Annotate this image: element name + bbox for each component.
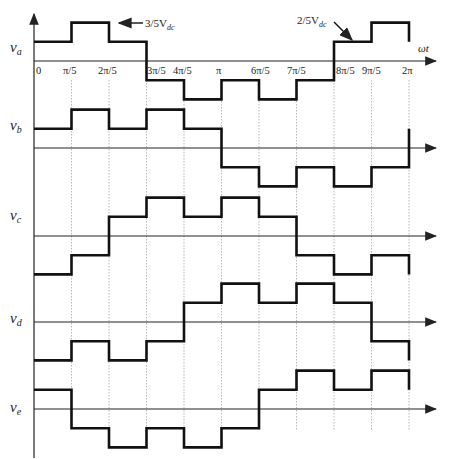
x-axis-label: ωt [418, 42, 430, 54]
tick-pi: π [216, 65, 222, 76]
tick-0: 0 [36, 65, 41, 76]
label-vc: vc [10, 207, 22, 225]
phase-axes [34, 61, 436, 409]
label-ve: ve [10, 399, 22, 417]
tick-2pi: 2π [402, 65, 413, 76]
tick-6pi-5: 6π/5 [251, 65, 270, 76]
tick-8pi-5: 8π/5 [336, 65, 355, 76]
waveform-diagram: 0 π/5 2π/5 3π/5 4π/5 π 6π/5 7π/5 8π/5 9π… [0, 0, 450, 459]
tick-3pi-5: 3π/5 [147, 65, 166, 76]
tick-9pi-5: 9π/5 [362, 65, 381, 76]
tick-pi-5: π/5 [63, 65, 76, 76]
tick-labels: 0 π/5 2π/5 3π/5 4π/5 π 6π/5 7π/5 8π/5 9π… [36, 65, 413, 76]
annotation-3-5-vdc: 3/5Vdc [145, 17, 175, 32]
tick-7pi-5: 7π/5 [287, 65, 306, 76]
annotation-arrow-2-5 [334, 22, 352, 40]
label-vd: vd [10, 310, 23, 328]
annotation-2-5-vdc: 2/5Vdc [297, 14, 327, 29]
label-vb: vb [10, 117, 22, 135]
time-gridlines [72, 80, 410, 430]
tick-4pi-5: 4π/5 [173, 65, 192, 76]
tick-2pi-5: 2π/5 [98, 65, 117, 76]
label-va: va [10, 39, 22, 57]
